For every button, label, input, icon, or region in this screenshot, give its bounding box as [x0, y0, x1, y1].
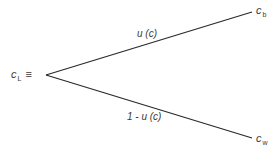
worst-outcome-label: cw [256, 133, 268, 144]
lower-branch-probability: 1 - u (c) [127, 112, 161, 122]
branch-lines [0, 0, 275, 160]
best-outcome-symbol: c [256, 4, 262, 16]
best-outcome-subscript: b [263, 11, 267, 18]
origin-symbol: c [11, 68, 17, 80]
origin-node-label: cL≡ [11, 69, 32, 80]
equivalence-sign: ≡ [25, 68, 31, 80]
upper-branch-line [46, 12, 252, 75]
origin-subscript: L [18, 75, 22, 82]
worst-outcome-symbol: c [256, 132, 262, 144]
lower-branch-line [46, 75, 252, 138]
lottery-diagram: cL≡ u (c) 1 - u (c) cb cw [0, 0, 275, 160]
best-outcome-label: cb [256, 5, 266, 16]
worst-outcome-subscript: w [263, 139, 268, 146]
upper-branch-probability: u (c) [137, 29, 157, 39]
